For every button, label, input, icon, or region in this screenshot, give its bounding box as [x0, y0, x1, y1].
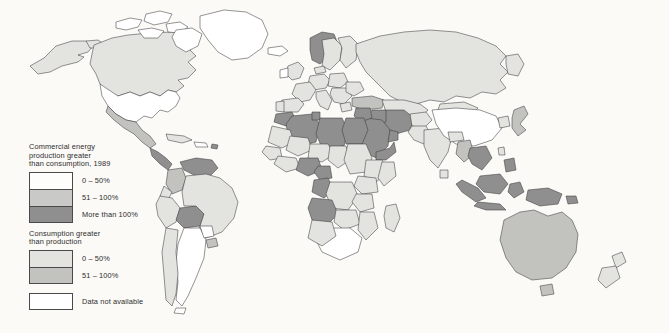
region-philippines	[504, 158, 516, 172]
legend-swatch-stack-production: 0 – 50% 51 – 100% More than 100%	[29, 172, 179, 223]
legend-swatch-production-100plus	[29, 206, 73, 223]
legend-spacer-2	[29, 284, 179, 293]
legend-group-consumption: Consumption greater than production 0 – …	[29, 230, 179, 284]
legend-row-consumption-51-100[interactable]: 51 – 100%	[29, 267, 179, 284]
region-korea	[498, 116, 510, 128]
legend-swatch-production-0-50	[29, 172, 73, 189]
legend-swatch-no-data	[29, 293, 73, 310]
legend-heading-consumption: Consumption greater than production	[29, 230, 179, 247]
region-lesser-antilles	[211, 144, 218, 149]
region-tasmania	[540, 284, 554, 296]
legend-swatch-consumption-0-50	[29, 250, 73, 267]
legend-label-production-51-100: 51 – 100%	[73, 189, 118, 206]
legend-row-consumption-0-50[interactable]: 0 – 50%	[29, 250, 179, 267]
legend-swatch-consumption-51-100	[29, 267, 73, 284]
legend-label-production-100plus: More than 100%	[73, 206, 138, 223]
legend-swatch-stack-consumption: 0 – 50% 51 – 100%	[29, 250, 179, 284]
legend-row-production-100plus[interactable]: More than 100%	[29, 206, 179, 223]
region-portugal	[276, 101, 284, 112]
legend-label-production-0-50: 0 – 50%	[73, 172, 110, 189]
legend-row-production-0-50[interactable]: 0 – 50%	[29, 172, 179, 189]
region-gulf-states	[388, 130, 398, 142]
region-ireland	[280, 68, 288, 78]
region-hispaniola	[194, 142, 208, 147]
legend-swatch-production-51-100	[29, 189, 73, 206]
legend-label-consumption-0-50: 0 – 50%	[73, 250, 110, 267]
legend-row-no-data[interactable]: Data not available	[29, 293, 179, 310]
legend-heading-production: Commercial energy production greater tha…	[29, 143, 179, 169]
region-png-islands	[566, 196, 578, 204]
region-uruguay	[206, 238, 218, 248]
legend-label-no-data: Data not available	[73, 293, 143, 310]
region-nepal-bangladesh	[448, 132, 464, 142]
legend-row-production-51-100[interactable]: 51 – 100%	[29, 189, 179, 206]
region-tunisia	[312, 112, 320, 120]
map-legend: Commercial energy production greater tha…	[29, 143, 179, 310]
legend-group-production: Commercial energy production greater tha…	[29, 143, 179, 223]
region-sri-lanka	[440, 170, 448, 178]
world-map-figure: .ln{stroke:#3d3d3d;stroke-width:.55;stro…	[0, 0, 669, 333]
legend-label-consumption-51-100: 51 – 100%	[73, 267, 118, 284]
region-greece	[340, 102, 352, 112]
region-taiwan	[498, 147, 505, 155]
